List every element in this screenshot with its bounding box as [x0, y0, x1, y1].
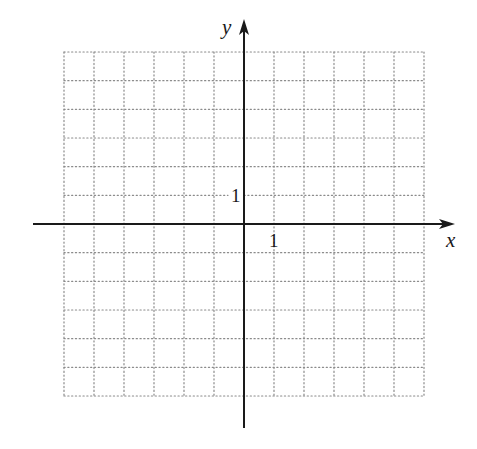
grid-svg: [0, 0, 477, 449]
x-tick-label-1: 1: [269, 231, 279, 250]
y-tick-label-1: 1: [231, 186, 241, 205]
x-axis-label: x: [446, 230, 455, 251]
y-axis-label: y: [222, 17, 231, 38]
coordinate-plane: y x 1 1: [0, 0, 477, 449]
